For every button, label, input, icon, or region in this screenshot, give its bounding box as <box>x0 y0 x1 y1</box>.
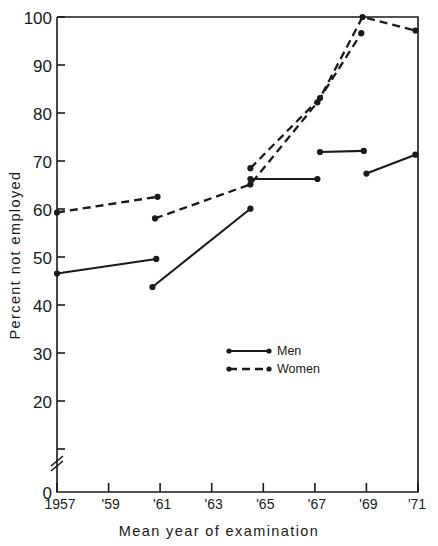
data-point <box>358 30 364 36</box>
y-axis-ticks <box>57 17 65 449</box>
plot-frame <box>57 17 418 492</box>
y-tick-label: 40 <box>33 297 52 316</box>
data-series-layer <box>54 14 419 290</box>
data-point <box>363 171 369 177</box>
data-point <box>317 149 323 155</box>
y-tick-label: 20 <box>33 393 52 412</box>
legend-item-women: Women <box>226 362 319 376</box>
data-point <box>317 95 323 101</box>
line-chart-svg: 100 90 80 70 60 50 40 30 20 0 1957 '59 ' <box>0 0 438 546</box>
data-point <box>149 284 155 290</box>
series-line-segment <box>57 259 156 274</box>
legend-marker-dot <box>266 348 271 353</box>
y-axis-tick-labels: 100 90 80 70 60 50 40 30 20 0 <box>24 9 52 503</box>
x-tick-label: '61 <box>153 496 171 512</box>
x-tick-label: '59 <box>101 496 119 512</box>
data-point <box>412 27 418 33</box>
data-point <box>361 148 367 154</box>
legend-marker-dot <box>266 366 271 371</box>
y-tick-label: 60 <box>33 201 52 220</box>
chart-figure: 100 90 80 70 60 50 40 30 20 0 1957 '59 ' <box>0 0 438 546</box>
x-tick-label: '71 <box>408 496 426 512</box>
data-point <box>359 14 365 20</box>
legend-marker-dot <box>226 366 231 371</box>
data-point <box>152 215 158 221</box>
data-point <box>154 194 160 200</box>
data-point <box>412 152 418 158</box>
x-tick-label: '69 <box>359 496 377 512</box>
data-point <box>247 165 253 171</box>
legend-label-men: Men <box>277 344 301 358</box>
series-women <box>54 14 419 222</box>
x-tick-label: '65 <box>256 496 274 512</box>
y-tick-label: 100 <box>24 9 52 28</box>
y-tick-label: 70 <box>33 153 52 172</box>
x-tick-label: '63 <box>205 496 223 512</box>
legend-marker-dot <box>226 348 231 353</box>
x-axis-tick-labels: 1957 '59 '61 '63 '65 '67 '69 '71 <box>44 496 426 512</box>
legend-label-women: Women <box>277 362 320 376</box>
y-tick-label: 50 <box>33 249 52 268</box>
series-line-segment <box>57 197 158 213</box>
x-tick-label: '67 <box>308 496 326 512</box>
legend-item-men: Men <box>226 344 301 358</box>
y-tick-label: 80 <box>33 105 52 124</box>
series-men <box>54 148 419 290</box>
series-line-segment <box>155 33 361 218</box>
data-point <box>153 256 159 262</box>
data-point <box>54 209 60 215</box>
x-axis-title: Mean year of examination <box>119 523 319 539</box>
x-axis-ticks <box>57 483 418 492</box>
data-point <box>247 181 253 187</box>
chart-legend: Men Women <box>226 344 319 376</box>
data-point <box>54 270 60 276</box>
series-line-segment <box>366 155 415 174</box>
y-axis-title: Percent not employed <box>7 170 23 339</box>
data-point <box>247 206 253 212</box>
y-tick-label: 90 <box>33 57 52 76</box>
series-line-segment <box>250 17 415 168</box>
y-tick-label: 30 <box>33 345 52 364</box>
x-tick-label: 1957 <box>44 496 75 512</box>
data-point <box>314 176 320 182</box>
series-line-segment <box>320 151 364 152</box>
series-line-segment <box>152 209 250 287</box>
